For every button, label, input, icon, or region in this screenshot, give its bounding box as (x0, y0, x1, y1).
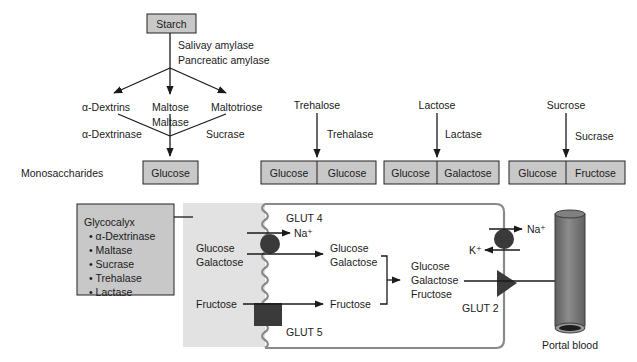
enzyme-alpha-dextrinase: α-Dextrinase (82, 128, 142, 140)
glycocalyx-item: Lactase (96, 286, 133, 298)
vessel-body (555, 214, 585, 326)
svg-text:• Maltase: • Maltase (89, 244, 133, 256)
svg-text:• α-Dextrinase: • α-Dextrinase (89, 230, 156, 242)
enzyme-maltase: Maltase (152, 116, 189, 128)
lactose-label: Lactose (419, 99, 456, 111)
enzyme-pancreatic-amylase: Pancreatic amylase (178, 54, 270, 66)
trehalose-label: Trehalose (294, 99, 340, 111)
vessel-lumen-opening (559, 325, 581, 331)
bullet: • (89, 244, 93, 256)
glucose-end-product: Glucose (151, 167, 190, 179)
bullet: • (89, 272, 93, 284)
svg-text:• Lactase: • Lactase (89, 286, 133, 298)
merge-bracket (380, 256, 387, 304)
lumen-fructose: Fructose (196, 298, 237, 310)
sucrose-pathway: Sucrose Sucrase Glucose Fructose (509, 99, 625, 184)
glut4-label: GLUT 4 (286, 212, 323, 224)
merged-galactose: Galactose (411, 274, 458, 286)
starch-label: Starch (156, 18, 187, 30)
cell-galactose: Galactose (330, 256, 377, 268)
lactose-product-1: Glucose (391, 167, 430, 179)
enzyme-salivary-amylase: Salivay amylase (178, 39, 254, 51)
k-basal-label: K⁺ (469, 244, 482, 256)
trehalose-pathway: Trehalose Trehalase Glucose Glucose (261, 99, 376, 184)
glycocalyx-item: Trehalase (95, 272, 141, 284)
glycocalyx-panel: Glycocalyx • α-Dextrinase • Maltase • Su… (77, 204, 193, 298)
glycocalyx-item: α-Dextrinase (96, 230, 156, 242)
product-maltotriose: Maltotriose (211, 101, 263, 113)
na-apical-label: Na⁺ (294, 227, 313, 239)
bullet: • (89, 230, 93, 242)
bullet: • (89, 286, 93, 298)
svg-text:• Trehalase: • Trehalase (89, 272, 142, 284)
trehalose-product-2: Glucose (328, 167, 367, 179)
sucrose-product-1: Glucose (518, 167, 557, 179)
lactase-enzyme: Lactase (445, 128, 482, 140)
trehalase-enzyme: Trehalase (327, 128, 373, 140)
monosaccharides-row-label: Monosaccharides (21, 167, 103, 179)
merged-fructose: Fructose (411, 288, 452, 300)
bullet: • (89, 258, 93, 270)
merged-glucose: Glucose (411, 260, 450, 272)
na-k-pump-icon (494, 229, 514, 249)
starch-pathway: Starch Salivay amylase Pancreatic amylas… (82, 14, 270, 184)
enzyme-sucrase-starch: Sucrase (206, 128, 245, 140)
glycocalyx-item: Sucrase (96, 258, 135, 270)
lactose-pathway: Lactose Lactase Glucose Galactose (384, 99, 499, 184)
cell-glucose: Glucose (330, 242, 369, 254)
glut4-transporter-icon (260, 234, 280, 254)
na-basal-label: Na⁺ (527, 223, 546, 235)
lactose-product-2: Galactose (444, 167, 491, 179)
lumen-galactose: Galactose (196, 256, 243, 268)
trehalose-product-1: Glucose (270, 167, 309, 179)
sucrase-enzyme: Sucrase (575, 130, 614, 142)
product-maltose: Maltose (152, 101, 189, 113)
digestion-diagram: Starch Salivay amylase Pancreatic amylas… (0, 0, 637, 362)
arrow-to-dextrins (114, 68, 170, 93)
glut2-label: GLUT 2 (462, 302, 499, 314)
intestinal-lumen-area (183, 203, 265, 347)
cell-fructose: Fructose (330, 298, 371, 310)
lumen-glucose: Glucose (196, 242, 235, 254)
arrow-to-maltotriose (170, 68, 226, 93)
sucrose-label: Sucrose (547, 99, 586, 111)
portal-blood-label: Portal blood (542, 339, 598, 351)
glycocalyx-item: Maltase (96, 244, 133, 256)
glut5-transporter-icon (254, 303, 282, 326)
glut2-transporter-icon (497, 270, 517, 297)
vessel-top (555, 210, 585, 218)
svg-text:• Sucrase: • Sucrase (89, 258, 134, 270)
product-alpha-dextrins: α-Dextrins (82, 101, 130, 113)
sucrose-product-2: Fructose (575, 167, 616, 179)
glycocalyx-title: Glycocalyx (84, 216, 136, 228)
glut5-label: GLUT 5 (286, 326, 323, 338)
